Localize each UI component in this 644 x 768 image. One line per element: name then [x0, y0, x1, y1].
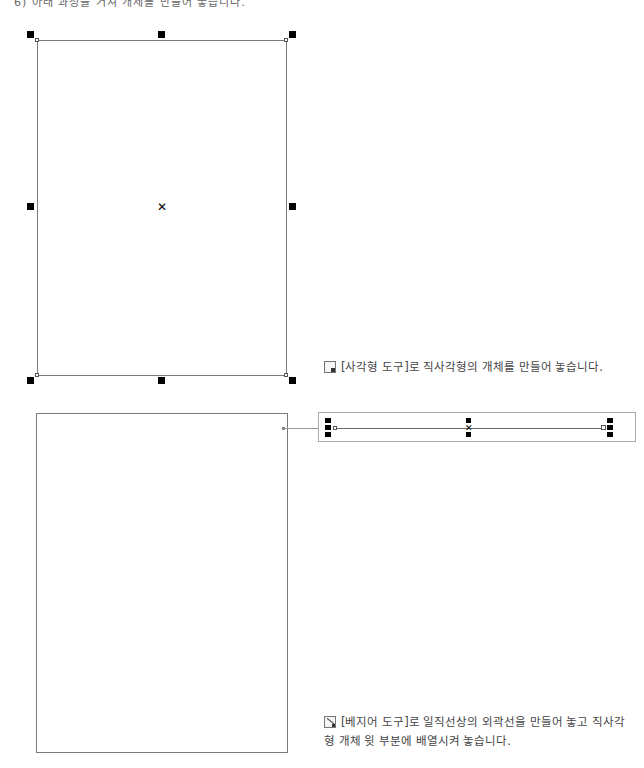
- step1-caption-text: [사각형 도구]로 직사각형의 개체를 만들어 놓습니다.: [341, 360, 603, 374]
- handle-top-right[interactable]: [289, 31, 296, 38]
- step2-caption: [베지어 도구]로 일직선상의 외곽선을 만들어 놓고 직사각형 개체 윗 부분…: [324, 713, 634, 751]
- step1-caption: [사각형 도구]로 직사각형의 개체를 만들어 놓습니다.: [324, 358, 642, 377]
- rectangle-tool-icon: [324, 361, 336, 373]
- handle-bottom-left[interactable]: [27, 377, 34, 384]
- handle-mid-right[interactable]: [289, 203, 296, 210]
- rectangle-object[interactable]: [36, 413, 288, 753]
- handle-right-mid[interactable]: [607, 425, 613, 430]
- corner-node-br: [284, 373, 288, 377]
- handle-top-center[interactable]: [158, 31, 165, 38]
- handle-bottom-center[interactable]: [158, 377, 165, 384]
- leader-dot: [282, 427, 285, 430]
- corner-node-tr: [284, 38, 288, 42]
- leader-line: [284, 428, 318, 429]
- center-marker-icon: ✕: [157, 201, 167, 213]
- handle-left-top[interactable]: [325, 418, 331, 423]
- cropped-header-text: 6) 아래 과정을 거쳐 개체를 만들어 놓습니다.: [14, 0, 246, 9]
- handle-left-bottom[interactable]: [325, 432, 331, 437]
- line-end-node: [601, 425, 606, 430]
- handle-bottom-right[interactable]: [289, 377, 296, 384]
- handle-center-bottom[interactable]: [466, 432, 471, 437]
- handle-right-bottom[interactable]: [607, 432, 613, 437]
- handle-right-top[interactable]: [607, 418, 613, 423]
- line-start-node: [333, 426, 337, 430]
- handle-left-mid[interactable]: [325, 425, 331, 430]
- handle-mid-left[interactable]: [27, 203, 34, 210]
- corner-node-bl: [35, 373, 39, 377]
- bezier-tool-icon: [324, 716, 336, 728]
- handle-top-left[interactable]: [27, 31, 34, 38]
- bezier-line-callout: ✕: [318, 412, 636, 442]
- corner-node-tl: [35, 38, 39, 42]
- step2-caption-text: [베지어 도구]로 일직선상의 외곽선을 만들어 놓고 직사각형 개체 윗 부분…: [324, 715, 625, 748]
